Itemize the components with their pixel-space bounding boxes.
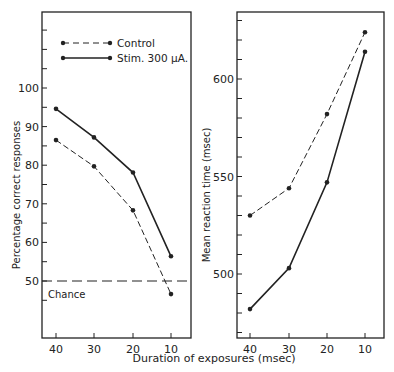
data-point (325, 112, 330, 117)
y-tick-label: 550 (213, 171, 234, 184)
data-point (169, 292, 174, 297)
control-series-line (250, 32, 365, 215)
legend-stim-label: Stim. 300 μA. (117, 52, 188, 64)
x-tick-label: 30 (87, 343, 101, 356)
data-point (131, 170, 136, 175)
data-point (131, 208, 136, 213)
y-tick-label: 500 (213, 268, 234, 281)
legend-marker (108, 41, 112, 45)
chart-canvas: 403020105060708090100Percentage correct … (0, 0, 394, 372)
y-tick-label: 60 (25, 236, 39, 249)
data-point (92, 135, 97, 140)
data-point (287, 186, 292, 191)
x-axis-label: Duration of exposures (msec) (133, 352, 296, 365)
data-point (363, 49, 368, 54)
legend-marker (108, 56, 112, 60)
figure: 403020105060708090100Percentage correct … (0, 0, 394, 372)
chance-label: Chance (48, 289, 85, 300)
data-point (248, 307, 253, 312)
data-point (287, 266, 292, 271)
stim-series-line (56, 109, 171, 256)
data-point (92, 164, 97, 169)
x-tick-label: 40 (49, 343, 63, 356)
data-point (363, 30, 368, 35)
data-point (325, 180, 330, 185)
data-point (248, 213, 253, 218)
stim-series-line (250, 52, 365, 309)
accuracy-panel: 403020105060708090100Percentage correct … (11, 12, 191, 356)
y-tick-label: 600 (213, 73, 234, 86)
y-axis-label: Percentage correct responses (11, 121, 22, 269)
y-tick-label: 70 (25, 198, 39, 211)
data-point (54, 107, 59, 112)
y-axis-label: Mean reaction time (msec) (201, 128, 212, 263)
y-tick-label: 90 (25, 121, 39, 134)
data-point (54, 138, 59, 143)
y-tick-label: 100 (18, 82, 39, 95)
data-point (169, 254, 174, 259)
x-tick-label: 10 (358, 343, 372, 356)
y-tick-label: 80 (25, 159, 39, 172)
x-tick-label: 20 (320, 343, 334, 356)
reaction-time-panel: 40302010500550600Mean reaction time (mse… (201, 12, 384, 356)
legend-marker (61, 41, 65, 45)
y-tick-label: 50 (25, 275, 39, 288)
legend-control-label: Control (117, 37, 155, 49)
legend-marker (61, 56, 65, 60)
